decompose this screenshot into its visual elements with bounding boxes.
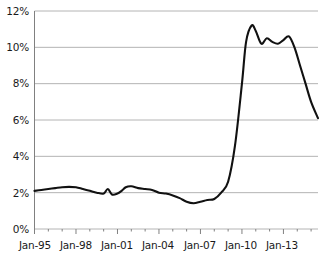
y-tick-label-8: 8% bbox=[0, 78, 29, 89]
y-tick-label-2: 2% bbox=[0, 188, 29, 199]
y-tick-label-10: 10% bbox=[0, 42, 29, 53]
series-line-rate bbox=[35, 25, 319, 203]
y-tick-label-12: 12% bbox=[0, 6, 29, 17]
y-tick-label-0: 0% bbox=[0, 224, 29, 235]
y-tick-label-4: 4% bbox=[0, 151, 29, 162]
chart-plot bbox=[0, 0, 323, 261]
x-tick-label-jan-13: Jan-13 bbox=[256, 240, 308, 251]
y-tick-label-6: 6% bbox=[0, 115, 29, 126]
chart-container: 12% 10% 8% 6% 4% 2% 0% Jan-95 Jan-98 Jan… bbox=[0, 0, 323, 261]
